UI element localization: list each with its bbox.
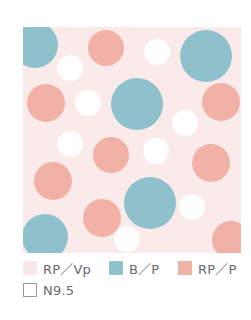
swatch-n9-5 [23,283,37,297]
dot-n9-5 [57,131,83,157]
dot-n9-5 [57,55,83,81]
dot-b-p [111,78,163,130]
legend-label-rp-vp: RP／Vp [43,259,91,278]
swatch-rp-vp [23,261,37,275]
dot-rp-p [192,144,230,182]
polka-dot-pattern [23,27,241,253]
dot-rp-p [83,199,121,237]
dot-n9-5 [144,39,170,65]
legend-item-b-p: B／P [109,258,159,278]
legend-row-2: N9.5 [23,280,251,302]
legend-label-b-p: B／P [129,259,159,278]
legend-label-n9-5: N9.5 [43,283,74,298]
dot-b-p [124,177,176,229]
legend-item-rp-vp: RP／Vp [23,258,91,278]
dot-rp-p [34,162,72,200]
swatch-rp-p [178,261,192,275]
legend-item-n9-5: N9.5 [23,280,74,300]
legend-label-rp-p: RP／P [198,259,237,278]
dot-rp-p [93,137,129,173]
dot-n9-5 [143,138,169,164]
swatch-b-p [109,261,123,275]
dot-n9-5 [179,194,205,220]
dot-rp-p [27,84,65,122]
dot-n9-5 [172,110,198,136]
dot-n9-5 [114,226,140,252]
dot-b-p [180,30,232,82]
legend-item-rp-p: RP／P [178,258,237,278]
pattern-canvas [23,27,241,253]
dot-n9-5 [75,90,101,116]
legend-row-1: RP／Vp B／P RP／P [23,258,251,280]
dot-rp-p [202,83,240,121]
color-legend: RP／Vp B／P RP／P N9.5 [23,258,251,302]
dot-rp-p [88,30,124,66]
